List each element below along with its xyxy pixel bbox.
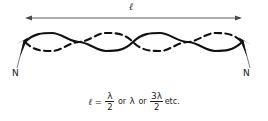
wavelength-formula: ℓ = λ 2 or λ or 3λ 2 etc. — [0, 92, 268, 112]
standing-wave-figure: ℓ N N ℓ = λ 2 or λ or 3λ 2 etc. — [0, 0, 268, 121]
formula-equals-sign: = — [95, 98, 102, 107]
length-dimension-line — [25, 16, 242, 21]
node-label-right: N — [243, 69, 250, 78]
formula-term1-denominator: 2 — [106, 102, 113, 111]
formula-term3-denominator: 2 — [153, 102, 160, 111]
node-label-left: N — [12, 69, 19, 78]
length-label: ℓ — [129, 2, 133, 12]
formula-or-1: or — [118, 98, 126, 106]
formula-or-2: or — [138, 98, 146, 106]
formula-term2-lambda: λ — [130, 97, 135, 106]
solid-wave-curve — [25, 33, 242, 51]
formula-etc: etc. — [165, 98, 180, 106]
formula-lhs-ell: ℓ — [88, 97, 92, 107]
formula-term3-numerator: 3λ — [150, 92, 163, 102]
formula-fraction-three-halves-lambda: 3λ 2 — [150, 92, 163, 112]
formula-fraction-half-lambda: λ 2 — [105, 92, 114, 112]
formula-term1-numerator: λ — [106, 92, 113, 102]
dimension-arrowhead-left — [25, 16, 32, 21]
dimension-arrowhead-right — [235, 16, 242, 21]
